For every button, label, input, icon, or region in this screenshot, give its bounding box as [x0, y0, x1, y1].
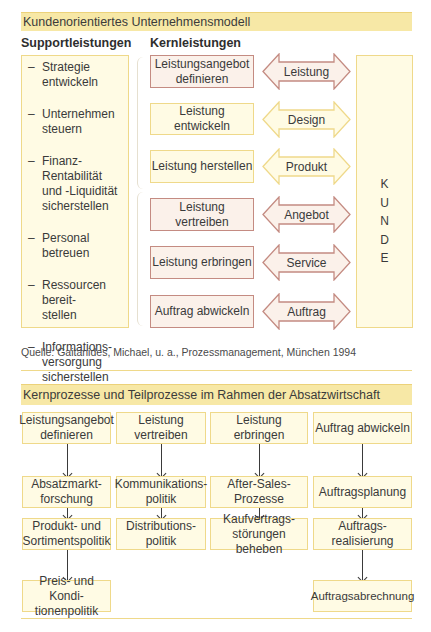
- divider: [21, 370, 412, 371]
- source-citation: Quelle: Gaitanides, Michael, u. a., Proz…: [21, 346, 356, 358]
- customer-letter: E: [380, 249, 388, 268]
- double-arrow-auftrag: Auftrag: [262, 293, 351, 330]
- sub-process-box: After-Sales- Prozesse: [210, 476, 308, 508]
- down-arrow-icon: [161, 444, 162, 476]
- core-process-box: Leistung erbringen: [210, 412, 308, 444]
- down-arrow-icon: [362, 444, 363, 476]
- double-arrow-service: Service: [262, 244, 351, 281]
- brace-upper: [137, 57, 143, 189]
- sub-process-box: Auftragsplanung: [313, 476, 412, 508]
- customer-letter: U: [380, 194, 389, 213]
- double-arrow-angebot: Angebot: [262, 196, 351, 233]
- arrow-label: Service: [262, 244, 351, 281]
- model-title-bar: Kundenorientiertes Unternehmensmodell: [21, 12, 412, 31]
- sub-process-box: Absatzmarkt- forschung: [22, 476, 111, 508]
- customer-letter: K: [380, 175, 388, 194]
- core-process-box: Leistung vertreiben: [116, 412, 206, 444]
- sub-process-box: Distributions- politik: [116, 518, 206, 550]
- double-arrow-design: Design: [262, 101, 351, 138]
- down-arrow-icon: [362, 550, 363, 580]
- core-box-auftrag: Auftrag abwickeln: [150, 295, 254, 328]
- sub-process-box: Auftragsabrechnung: [313, 580, 412, 612]
- customer-box: K U N D E: [356, 55, 413, 328]
- sub-process-box: Produkt- und Sortimentspolitik: [22, 518, 111, 550]
- down-arrow-icon: [161, 508, 162, 518]
- core-process-box: Auftrag abwickeln: [313, 412, 412, 444]
- down-arrow-icon: [259, 444, 260, 476]
- core-box-entwickeln: Leistung entwickeln: [150, 103, 254, 135]
- core-box-vertreiben: Leistung vertreiben: [150, 198, 254, 231]
- down-arrow-icon: [67, 444, 68, 476]
- core-box-erbringen: Leistung erbringen: [150, 246, 254, 279]
- customer-letter: D: [380, 231, 389, 250]
- arrow-label: Angebot: [262, 196, 351, 233]
- processes-title: Kernprozesse und Teilprozesse im Rahmen …: [23, 388, 380, 402]
- arrow-label: Design: [262, 101, 351, 138]
- sub-process-box: Kommunikations- politik: [116, 476, 206, 508]
- bottom-divider: [21, 618, 412, 619]
- down-arrow-icon: [362, 508, 363, 518]
- arrow-label: Auftrag: [262, 293, 351, 330]
- support-list: Strategie entwickeln Unternehmen steuern…: [22, 56, 128, 385]
- down-arrow-icon: [67, 508, 68, 518]
- sub-process-box: Auftrags- realisierung: [313, 518, 412, 550]
- core-box-leistungsangebot: Leistungsangebot definieren: [150, 55, 254, 88]
- core-box-herstellen: Leistung herstellen: [150, 150, 254, 183]
- double-arrow-produkt: Produkt: [262, 148, 351, 185]
- customer-letter: N: [380, 212, 389, 231]
- arrow-label: Leistung: [262, 53, 351, 90]
- sub-process-box: Kaufvertrags- störungen beheben: [210, 518, 308, 550]
- core-process-box: Leistungsangebot definieren: [22, 412, 111, 444]
- arrow-label: Produkt: [262, 148, 351, 185]
- double-arrow-leistung: Leistung: [262, 53, 351, 90]
- support-box: Strategie entwickeln Unternehmen steuern…: [21, 55, 129, 328]
- support-item: Strategie entwickeln: [28, 60, 126, 90]
- support-item: Ressourcen bereit- stellen: [28, 278, 126, 323]
- sub-process-box: Preis- und Kondi- tionenpolitik: [22, 580, 111, 612]
- brace-lower: [137, 192, 143, 326]
- core-heading: Kernleistungen: [150, 36, 241, 50]
- processes-title-bar: Kernprozesse und Teilprozesse im Rahmen …: [21, 384, 412, 405]
- support-item: Unternehmen steuern: [28, 107, 126, 137]
- support-item: Finanz-Rentabilität und -Liquidität sich…: [28, 154, 126, 214]
- support-heading: Supportleistungen: [21, 36, 131, 50]
- model-title: Kundenorientiertes Unternehmensmodell: [23, 15, 250, 29]
- support-item: Personal betreuen: [28, 231, 126, 261]
